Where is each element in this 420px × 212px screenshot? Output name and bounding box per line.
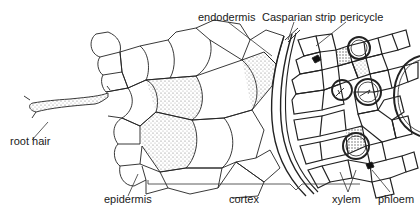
label-casparian-strip: Casparian strip <box>262 12 336 23</box>
label-cortex: cortex <box>229 194 259 205</box>
label-root-hair: root hair <box>10 136 50 147</box>
xylem-leader <box>340 170 356 192</box>
epidermis-cells <box>91 32 120 57</box>
root-hair <box>30 93 108 112</box>
label-phloem: phloem <box>378 194 414 205</box>
cell-outlines <box>24 20 420 198</box>
label-endodermis: endodermis <box>198 12 255 23</box>
root-cross-section-drawing <box>0 0 420 212</box>
label-xylem: xylem <box>332 194 361 205</box>
label-epidermis: epidermis <box>104 194 152 205</box>
label-pericycle: pericycle <box>340 12 383 23</box>
pericycle-leader <box>316 22 346 46</box>
phloem-cell <box>312 55 321 63</box>
cortex-cells <box>120 46 148 88</box>
endodermis <box>272 36 306 196</box>
cortex-bracket <box>148 180 360 190</box>
endodermis-leader <box>228 22 272 56</box>
